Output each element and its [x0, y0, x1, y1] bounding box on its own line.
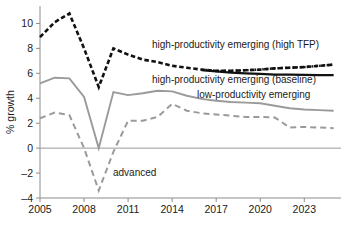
y-tick-label: 0: [27, 142, 33, 154]
x-tick-label: 2008: [72, 203, 96, 215]
y-tick-label: 10: [21, 17, 33, 29]
y-tick-label: –2: [21, 167, 33, 179]
x-tick-label: 2023: [293, 203, 317, 215]
growth-line-chart: % growth 10 8 6 4 2 0 –2 –4 2005 2008 20…: [0, 0, 344, 227]
x-tick-label: 2005: [28, 203, 52, 215]
y-tick-label: 4: [27, 92, 33, 104]
y-tick-labels: 10 8 6 4 2 0 –2 –4: [21, 17, 33, 204]
y-tick-label: 6: [27, 67, 33, 79]
x-tick-label: 2017: [205, 203, 229, 215]
y-tick-label: 8: [27, 42, 33, 54]
y-tick-label: 2: [27, 117, 33, 129]
y-tick-label: –4: [21, 192, 33, 204]
x-tick-label: 2020: [249, 203, 273, 215]
series-line: [40, 104, 334, 191]
x-tick-labels: 2005 2008 2011 2014 2017 2020 2023: [28, 203, 316, 215]
x-tick-label: 2014: [160, 203, 184, 215]
chart-container: % growth 10 8 6 4 2 0 –2 –4 2005 2008 20…: [0, 0, 344, 227]
y-axis-title: % growth: [4, 90, 16, 134]
series-label-advanced: advanced: [113, 167, 156, 178]
series-label-baseline: high-productivity emerging (baseline): [152, 74, 316, 85]
series-label-low-productivity: low-productivity emerging: [197, 89, 310, 100]
series-label-high-tfp: high-productivity emerging (high TFP): [152, 39, 319, 50]
x-tick-label: 2011: [117, 203, 140, 215]
chart-axes: [36, 6, 341, 202]
